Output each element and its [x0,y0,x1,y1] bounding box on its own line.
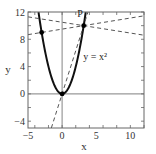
x-tick-label: 5 [94,130,99,141]
y-tick-label: 4 [20,61,25,72]
curve-equation-label: y = x² [83,51,107,62]
marker-point-2 [60,91,65,96]
plot-area [28,12,144,128]
dashed-line-3 [51,12,88,128]
marker-point-1 [39,30,44,35]
parabola-chart: −50510−404812 x y y = x²P [0,0,156,154]
y-axis-label: y [5,63,11,75]
x-tick-label: 0 [60,130,65,141]
tick-marks [28,12,144,128]
y-tick-label: 12 [15,7,25,18]
y-tick-label: 8 [20,34,25,45]
marker-point-0 [81,23,86,28]
x-tick-label: −5 [23,130,34,141]
plot-frame [28,12,144,128]
x-axis-label: x [81,140,87,152]
point-p-label: P [77,8,83,19]
y-tick-label: 0 [20,88,25,99]
x-tick-label: 10 [125,130,135,141]
y-tick-label: −4 [14,116,25,127]
